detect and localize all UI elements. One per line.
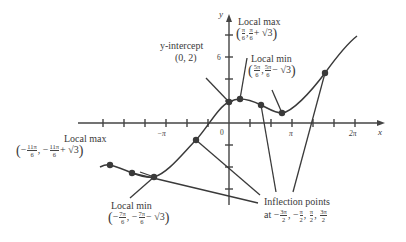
local-max-right-point [237, 96, 243, 102]
x-tick-pi: π [289, 128, 293, 139]
local-min-right-coord: (5π6,5π6− √3) [248, 63, 296, 78]
y-axis [225, 14, 233, 205]
x-axis-label: x [378, 127, 382, 138]
inflection-point [193, 137, 199, 143]
local-min-right-point [279, 110, 285, 116]
local-max-left-coord: (−11π6, −11π6+ √3) [16, 143, 83, 158]
inflection-values: at −3π2, −π2, π2, 3π2 [264, 208, 328, 223]
inflection-point [129, 170, 135, 176]
y-axis-label: y [219, 9, 223, 20]
inflection-point [258, 102, 264, 108]
y-intercept-point [226, 99, 232, 105]
key-points [107, 70, 328, 180]
inflection-title: Inflection points [264, 196, 330, 207]
graph-canvas [0, 0, 406, 242]
local-max-left-point [107, 162, 113, 168]
local-min-left-coord: (−7π6, −7π6− √3) [108, 210, 169, 225]
y-tick-6: 6 [217, 52, 221, 63]
origin-label: 0 [220, 127, 224, 138]
x-tick-neg-pi: −π [157, 128, 166, 139]
local-max-right-coord: (π6,π6+ √3) [236, 26, 277, 41]
x-tick-2pi: 2π [349, 128, 357, 139]
y-intercept-coord: (0, 2) [175, 52, 197, 63]
inflection-point [322, 70, 328, 76]
x-axis [78, 119, 385, 127]
local-min-left-point [151, 174, 157, 180]
y-intercept-title: y-intercept [160, 40, 203, 51]
